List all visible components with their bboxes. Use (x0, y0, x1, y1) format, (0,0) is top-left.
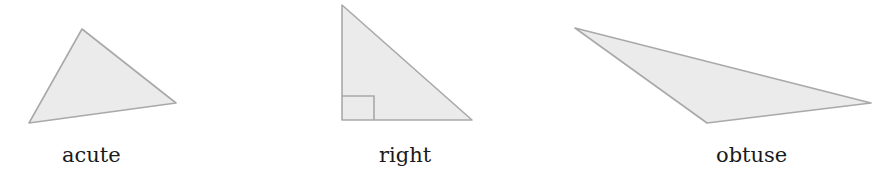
obtuse-triangle (575, 28, 871, 123)
obtuse-label: obtuse (716, 145, 787, 166)
acute-label: acute (62, 145, 121, 166)
acute-triangle (29, 29, 176, 123)
right-triangle (342, 5, 472, 120)
triangle-types-diagram: acute right obtuse (0, 0, 896, 182)
right-label: right (379, 145, 431, 166)
